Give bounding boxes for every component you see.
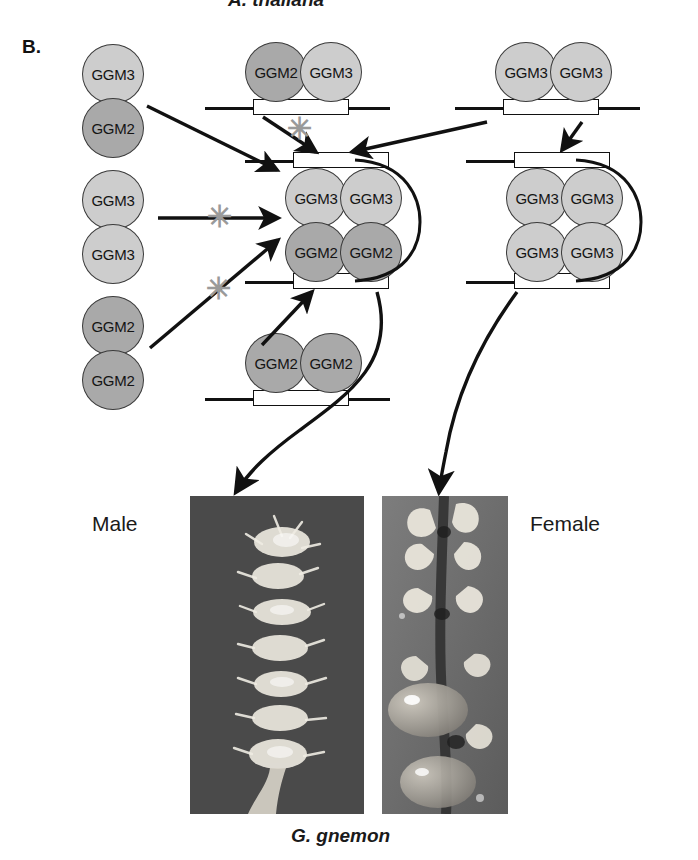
arrow-dna-dimer-2-to-female-tetramer — [562, 122, 582, 150]
protein-label: GGM3 — [571, 244, 614, 261]
dna-binding-site-tetramer-male-upper — [293, 152, 389, 168]
tetramer-male-bottom-left-protein: GGM2 — [285, 222, 347, 282]
species-label-top: A. thaliana — [228, 0, 324, 11]
tetramer-female-bottom-right-protein: GGM3 — [561, 222, 623, 282]
protein-label: GGM2 — [92, 120, 135, 137]
free-dimer-3-top-protein: GGM2 — [82, 296, 144, 356]
protein-label: GGM3 — [92, 66, 135, 83]
dna-dimer-3-right-protein: GGM2 — [300, 333, 362, 393]
dna-dimer-2-right-protein: GGM3 — [550, 42, 612, 102]
dna-dimer-2-left-protein: GGM3 — [495, 42, 557, 102]
tetramer-male-bottom-right-protein: GGM2 — [340, 222, 402, 282]
arrow-dna-dimer-2-to-male-tetramer — [352, 122, 487, 152]
protein-label: GGM3 — [92, 246, 135, 263]
dna-dimer-3-left-protein: GGM2 — [245, 333, 307, 393]
dna-dimer-1-right-protein: GGM3 — [300, 42, 362, 102]
figure-panel-b: A. thaliana B. GGM3 GGM2 GGM3 GGM3 GGM2 … — [0, 0, 698, 860]
protein-label: GGM3 — [505, 64, 548, 81]
protein-label: GGM2 — [92, 318, 135, 335]
arrow-female-tetramer-to-female-photo — [439, 292, 517, 492]
free-dimer-1-bottom-protein: GGM2 — [82, 98, 144, 158]
label-male: Male — [92, 512, 138, 536]
free-dimer-2-top-protein: GGM3 — [82, 170, 144, 230]
panel-letter: B. — [22, 36, 41, 58]
protein-label: GGM3 — [310, 64, 353, 81]
protein-label: GGM2 — [255, 355, 298, 372]
protein-label: GGM3 — [350, 190, 393, 207]
photo-female-strobilus — [382, 496, 508, 814]
protein-label: GGM3 — [516, 244, 559, 261]
protein-label: GGM3 — [516, 190, 559, 207]
protein-label: GGM2 — [310, 355, 353, 372]
block-mark-free-dimer-3: ✳ — [206, 274, 231, 304]
dna-binding-site-tetramer-female-upper — [514, 152, 610, 168]
species-label-bottom: G. gnemon — [291, 825, 390, 847]
label-female: Female — [530, 512, 600, 536]
protein-label: GGM2 — [255, 64, 298, 81]
tetramer-female-bottom-left-protein: GGM3 — [506, 222, 568, 282]
block-mark-dna-dimer-1: ✳ — [287, 114, 312, 144]
photo-male-strobilus — [190, 496, 364, 814]
protein-label: GGM3 — [560, 64, 603, 81]
protein-label: GGM3 — [92, 192, 135, 209]
tetramer-female-top-left-protein: GGM3 — [506, 168, 568, 228]
free-dimer-1-top-protein: GGM3 — [82, 44, 144, 104]
free-dimer-2-bottom-protein: GGM3 — [82, 224, 144, 284]
dna-dimer-1-left-protein: GGM2 — [245, 42, 307, 102]
free-dimer-3-bottom-protein: GGM2 — [82, 350, 144, 410]
protein-label: GGM3 — [571, 190, 614, 207]
tetramer-female-top-right-protein: GGM3 — [561, 168, 623, 228]
tetramer-male-top-right-protein: GGM3 — [340, 168, 402, 228]
protein-label: GGM2 — [350, 244, 393, 261]
tetramer-male-top-left-protein: GGM3 — [285, 168, 347, 228]
block-mark-free-dimer-2: ✳ — [207, 202, 232, 232]
protein-label: GGM2 — [92, 372, 135, 389]
protein-label: GGM3 — [295, 190, 338, 207]
protein-label: GGM2 — [295, 244, 338, 261]
